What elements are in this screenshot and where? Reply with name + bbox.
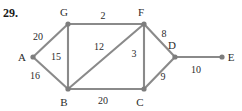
graph-node-b: [65, 86, 70, 91]
graph-node-a: [30, 54, 35, 59]
graph-node-g: [65, 21, 70, 26]
graph-node-d: [172, 54, 177, 59]
edge-weight-a-b: 16: [30, 70, 40, 81]
graph-node-e: [219, 54, 224, 59]
edge-weight-f-d: 8: [162, 28, 167, 39]
edge-weight-a-g: 20: [33, 31, 43, 42]
graph-edge-c-d: [144, 57, 175, 89]
weighted-graph-diagram: 2016215122038910 ABCDEFG: [0, 0, 242, 111]
node-label-g: G: [60, 6, 68, 18]
edge-weight-f-c: 3: [132, 48, 137, 59]
node-label-e: E: [228, 51, 235, 63]
node-label-f: F: [138, 6, 144, 18]
graph-node-f: [141, 21, 146, 26]
edge-weight-c-d: 9: [161, 71, 166, 82]
node-label-d: D: [168, 39, 176, 51]
node-label-a: A: [18, 51, 26, 63]
edge-weight-b-f: 12: [94, 41, 104, 52]
edge-weight-d-e: 10: [191, 64, 201, 75]
node-label-b: B: [60, 96, 67, 108]
node-label-c: C: [136, 96, 143, 108]
graph-node-c: [141, 86, 146, 91]
edge-weight-b-c: 20: [98, 95, 108, 106]
edge-weight-g-b: 15: [51, 51, 61, 62]
graph-edges: [33, 24, 222, 89]
graph-problem-figure: 29. 2016215122038910 ABCDEFG: [0, 0, 242, 111]
edge-weight-g-f: 2: [101, 10, 106, 21]
